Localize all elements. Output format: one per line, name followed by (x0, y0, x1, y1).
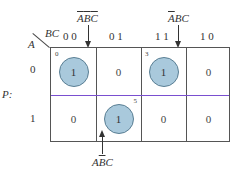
cell-m1: 0 (96, 48, 141, 95)
col-header-01: 0 1 (109, 30, 123, 42)
arrow-to-cell-5 (102, 136, 103, 154)
col-header-11: 1 1 (155, 30, 169, 42)
cell-index: 0 (55, 50, 59, 58)
cell-index: 3 (145, 50, 149, 58)
function-label: P: (2, 88, 12, 100)
grouped-circle: 1 (149, 57, 179, 87)
row-variable-label: A (28, 38, 35, 50)
row-header-0: 0 (30, 63, 36, 75)
cell-m0: 0 1 (51, 48, 96, 95)
term-label-a-bar-bc: ABC (168, 12, 189, 24)
karnaugh-map-grid: 0 1 0 3 1 0 0 5 1 0 0 (50, 47, 230, 142)
term-label-abc-bar: ABC (77, 12, 98, 24)
col-header-00: 0 0 (63, 30, 77, 42)
term-label-ab-bar-c: ABC (92, 156, 113, 168)
cell-m3: 3 1 (141, 48, 186, 95)
col-variable-label: BC (45, 27, 59, 39)
cell-index: 5 (134, 97, 138, 105)
col-header-10: 1 0 (200, 30, 214, 42)
grouped-circle: 1 (59, 57, 89, 87)
cell-m4: 0 (51, 95, 96, 142)
grouped-circle: 1 (104, 104, 134, 134)
cell-m2: 0 (186, 48, 231, 95)
cell-m6: 0 (186, 95, 231, 142)
row-header-1: 1 (30, 112, 36, 124)
cell-m7: 0 (141, 95, 186, 142)
